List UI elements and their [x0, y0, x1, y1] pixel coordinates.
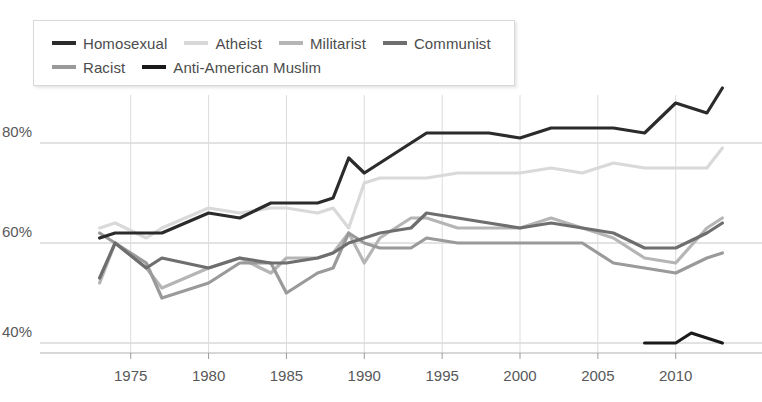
legend-item-communist[interactable]: Communist	[383, 35, 491, 52]
legend-item-militarist[interactable]: Militarist	[279, 35, 366, 52]
legend-label: Militarist	[310, 35, 366, 52]
legend-swatch-icon	[52, 65, 76, 69]
legend-label: Homosexual	[83, 35, 167, 52]
legend-swatch-icon	[142, 65, 166, 69]
x-tick-label: 2000	[503, 367, 536, 384]
x-tick-label: 1980	[192, 367, 225, 384]
x-tick-label: 1985	[270, 367, 303, 384]
data-series-group	[100, 88, 723, 343]
legend-swatch-icon	[383, 41, 407, 45]
y-axis-tick-labels: 40%60%80%	[2, 123, 32, 340]
chart-legend: HomosexualAtheistMilitaristCommunist Rac…	[33, 20, 515, 86]
legend-item-atheist[interactable]: Atheist	[184, 35, 262, 52]
legend-item-anti-american-muslim[interactable]: Anti-American Muslim	[142, 59, 321, 76]
series-line-atheist	[100, 148, 723, 238]
x-tick-label: 1990	[348, 367, 381, 384]
legend-label: Racist	[83, 59, 125, 76]
y-tick-label: 40%	[2, 323, 32, 340]
legend-item-homosexual[interactable]: Homosexual	[52, 35, 167, 52]
x-tick-label: 2005	[581, 367, 614, 384]
legend-row-2: RacistAnti-American Muslim	[52, 55, 514, 79]
x-tick-label: 1995	[425, 367, 458, 384]
legend-swatch-icon	[52, 41, 76, 45]
x-tick-label: 1975	[114, 367, 147, 384]
legend-swatch-icon	[279, 41, 303, 45]
y-tick-label: 60%	[2, 223, 32, 240]
line-chart: 40%60%80% 197519801985199019952000200520…	[0, 0, 762, 402]
legend-item-racist[interactable]: Racist	[52, 59, 125, 76]
legend-label: Anti-American Muslim	[173, 59, 321, 76]
series-line-anti-american-muslim	[645, 333, 723, 343]
x-axis-tick-labels: 19751980198519901995200020052010	[114, 367, 692, 384]
legend-label: Atheist	[215, 35, 262, 52]
y-tick-label: 80%	[2, 123, 32, 140]
x-axis-ticks	[131, 353, 676, 359]
legend-label: Communist	[414, 35, 491, 52]
legend-swatch-icon	[184, 41, 208, 45]
series-line-communist	[100, 213, 723, 278]
x-tick-label: 2010	[659, 367, 692, 384]
legend-row-1: HomosexualAtheistMilitaristCommunist	[52, 31, 514, 55]
